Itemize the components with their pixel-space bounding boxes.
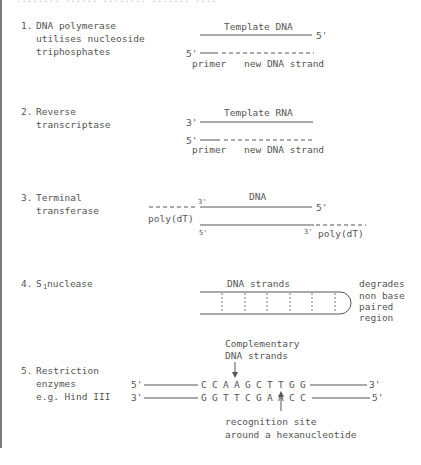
item-5-label-line-2: enzymes: [36, 378, 76, 389]
item-3-top-left-end: 3': [198, 198, 206, 206]
item-5-top-strand-start: 5': [131, 379, 142, 390]
svg-text:A: A: [223, 379, 229, 390]
item-2-template-start: 3': [186, 117, 197, 128]
item-1-label-line-3: triphosphates: [36, 46, 110, 57]
svg-text:T: T: [278, 379, 284, 390]
item-3-dna-label: DNA: [249, 191, 266, 202]
svg-text:T: T: [234, 392, 240, 403]
item-4-note-line-3: paired: [359, 301, 393, 312]
item-5-top-note-line-2: DNA strands: [225, 350, 288, 361]
svg-text:T: T: [223, 392, 229, 403]
svg-text:G: G: [201, 392, 207, 403]
svg-text:C: C: [201, 379, 207, 390]
item-1-label-line-1: DNA polymerase: [36, 20, 116, 31]
item-5-label-line-3: e.g. Hind III: [36, 391, 110, 402]
svg-text:A: A: [234, 379, 240, 390]
item-3-bottom-right-end: 3': [304, 228, 312, 236]
item-1-template-label: Template DNA: [224, 21, 293, 32]
item-3-left-tail-label: poly(dT): [148, 213, 194, 224]
svg-text:G: G: [245, 379, 251, 390]
item-3-bottom-left-end: 5': [199, 229, 207, 237]
svg-text:G: G: [212, 392, 218, 403]
item-4-base-pair-rungs: [222, 293, 335, 313]
item-1-primer-caption: primer: [192, 58, 227, 69]
item-5-top-strand-end: 3': [369, 379, 380, 390]
item-4-hairpin-strands: [200, 292, 351, 314]
svg-text:C: C: [212, 379, 218, 390]
item-3-top-right-end: 5': [316, 202, 327, 213]
item-4-strands-label: DNA strands: [227, 278, 290, 289]
item-5-bottom-strand-end: 5': [372, 392, 383, 403]
item-5-bottom-sequence: G G T T C G A A C C: [201, 392, 306, 403]
svg-text:G: G: [256, 392, 262, 403]
svg-text:A: A: [267, 392, 273, 403]
item-4-label-main: S: [36, 278, 42, 289]
item-5-bottom-note-line-2: around a hexanucleotide: [225, 429, 357, 440]
item-4-label-rest: nuclease: [47, 278, 93, 289]
svg-text:C: C: [256, 379, 262, 390]
item-2-primer-caption: primer: [192, 144, 227, 155]
item-5-restriction-enzymes: 5. Restriction enzymes e.g. Hind III Com…: [21, 338, 383, 440]
svg-text:G: G: [289, 379, 295, 390]
enzyme-diagram-svg: 1. DNA polymerase utilises nucleoside tr…: [0, 0, 421, 465]
item-1-template-end: 5': [316, 30, 327, 41]
item-5-cut-arrow-top-icon: [232, 372, 238, 378]
item-4-s1-nuclease: 4. S 1 nuclease DNA strands degrades non…: [21, 278, 405, 323]
svg-text:C: C: [300, 392, 306, 403]
item-2-new-strand-caption: new DNA strand: [244, 144, 324, 155]
item-2-label-line-2: transcriptase: [36, 119, 111, 130]
svg-text:G: G: [300, 379, 306, 390]
item-4-note-line-2: non base: [359, 290, 405, 301]
svg-text:C: C: [289, 392, 295, 403]
item-2-number: 2.: [21, 106, 32, 117]
svg-text:C: C: [245, 392, 251, 403]
item-5-top-sequence: C C A A G C T T G G: [201, 379, 306, 390]
item-2-reverse-transcriptase: 2. Reverse transcriptase Template RNA 3'…: [21, 106, 324, 155]
svg-text:T: T: [267, 379, 273, 390]
item-5-top-note-line-1: Complementary: [225, 338, 300, 349]
item-1-new-strand-caption: new DNA strand: [244, 58, 324, 69]
item-3-label-line-1: Terminal: [36, 192, 82, 203]
item-1-label-line-2: utilises nucleoside: [36, 33, 145, 44]
item-5-label-line-1: Restriction: [36, 365, 99, 376]
item-3-right-tail-label: poly(dT): [318, 228, 364, 239]
item-3-label-line-2: transferase: [36, 205, 99, 216]
item-1-dna-polymerase: 1. DNA polymerase utilises nucleoside tr…: [21, 20, 327, 69]
item-3-number: 3.: [21, 192, 32, 203]
item-3-terminal-transferase: 3. Terminal transferase DNA 3' 5' poly(d…: [21, 191, 366, 239]
item-5-bottom-note-line-1: recognition site: [225, 416, 317, 427]
item-5-number: 5.: [21, 365, 32, 376]
item-2-template-label: Template RNA: [224, 107, 293, 118]
item-4-number: 4.: [21, 278, 32, 289]
item-4-note-line-4: region: [359, 312, 393, 323]
item-4-note-line-1: degrades: [359, 278, 405, 289]
diagram-page: ........ ...... ........ ....... .... 1.…: [0, 0, 421, 465]
item-2-label-line-1: Reverse: [36, 106, 76, 117]
item-5-bottom-strand-start: 3': [131, 392, 142, 403]
item-1-number: 1.: [21, 20, 32, 31]
